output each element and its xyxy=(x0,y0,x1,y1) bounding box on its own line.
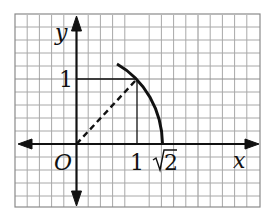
x-tick-sqrt2: 2 xyxy=(153,150,178,175)
quarter-circle-arc xyxy=(117,64,163,144)
coordinate-plane: y x O 1 1 2 xyxy=(0,0,267,213)
x-tick-1: 1 xyxy=(130,150,144,175)
arrow-down-icon xyxy=(72,191,82,206)
y-axis-label: y xyxy=(54,20,68,45)
y-tick-1: 1 xyxy=(59,67,73,92)
origin-label: O xyxy=(54,150,72,175)
arrow-up-icon xyxy=(72,16,82,31)
x-axis-label: x xyxy=(233,148,246,173)
radius-segment xyxy=(77,79,138,144)
arrow-right-icon xyxy=(245,139,259,149)
y-axis xyxy=(72,16,82,206)
arrow-left-icon xyxy=(18,139,32,149)
sqrt2-radicand: 2 xyxy=(164,150,178,175)
